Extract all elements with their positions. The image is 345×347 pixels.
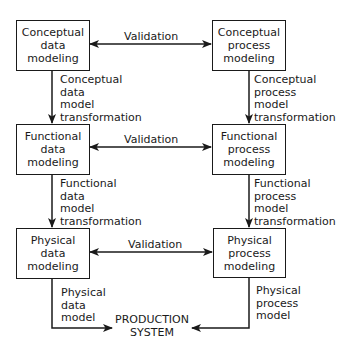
box-line: process [228, 247, 270, 260]
box-line: data [41, 143, 66, 156]
functional-data-transformation-label: Functional data model transformation [60, 178, 142, 228]
box-line: process [228, 143, 270, 156]
physical-data-model-label: Physical data model [61, 287, 106, 325]
box-line: process [228, 39, 270, 52]
box-physical-data-modeling: Physical data modeling [16, 228, 90, 279]
box-line: data [41, 39, 66, 52]
box-line: Conceptual [218, 26, 280, 39]
box-functional-process-modeling: Functional process modeling [212, 124, 286, 175]
box-line: modeling [223, 156, 274, 169]
label-line: transformation [60, 112, 142, 125]
validation-label-physical: Validation [128, 239, 182, 252]
label-line: transformation [254, 216, 336, 229]
validation-label-conceptual: Validation [124, 31, 178, 44]
label-line: Physical [256, 285, 301, 298]
conceptual-process-transformation-label: Conceptual process model transformation [254, 74, 336, 124]
label-line: model [61, 312, 106, 325]
label-line: Physical [61, 287, 106, 300]
box-line: Functional [25, 130, 82, 143]
box-functional-data-modeling: Functional data modeling [16, 124, 90, 175]
label-line: transformation [254, 112, 336, 125]
label-line: SYSTEM [114, 327, 190, 340]
box-line: Functional [221, 130, 278, 143]
box-line: modeling [223, 52, 274, 65]
box-line: Physical [31, 234, 76, 247]
production-system-label: PRODUCTION SYSTEM [114, 314, 190, 339]
box-line: modeling [27, 156, 78, 169]
box-line: Conceptual [22, 26, 84, 39]
label-line: Conceptual [60, 74, 142, 87]
label-line: transformation [60, 216, 142, 229]
validation-label-functional: Validation [124, 134, 178, 147]
box-physical-process-modeling: Physical process modeling [213, 228, 286, 278]
box-line: modeling [224, 260, 275, 273]
label-line: model [60, 99, 142, 112]
box-line: data [41, 247, 66, 260]
conceptual-data-transformation-label: Conceptual data model transformation [60, 74, 142, 124]
label-line: Functional [60, 178, 142, 191]
box-line: Physical [227, 234, 272, 247]
label-line: PRODUCTION [114, 314, 190, 327]
label-line: model [256, 310, 301, 323]
physical-process-model-label: Physical process model [256, 285, 301, 323]
box-line: modeling [27, 260, 78, 273]
label-line: Conceptual [254, 74, 336, 87]
label-line: model [60, 203, 142, 216]
box-conceptual-data-modeling: Conceptual data modeling [16, 20, 90, 71]
box-conceptual-process-modeling: Conceptual process modeling [212, 20, 286, 71]
box-line: modeling [27, 52, 78, 65]
label-line: model [254, 99, 336, 112]
label-line: model [254, 203, 336, 216]
functional-process-transformation-label: Functional process model transformation [254, 178, 336, 228]
label-line: Functional [254, 178, 336, 191]
